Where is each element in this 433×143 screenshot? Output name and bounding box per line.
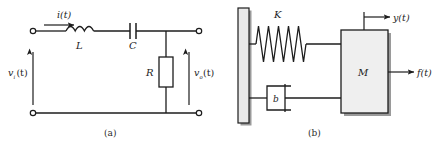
- inductor-label: L: [75, 40, 83, 51]
- fixed-wall: [238, 8, 249, 123]
- svg-text:(t): (t): [16, 67, 27, 78]
- terminal-output-top: [196, 28, 201, 33]
- panel-a-caption: (a): [104, 128, 116, 138]
- current-label: i(t): [57, 9, 72, 20]
- displacement-label: y(t): [392, 12, 410, 23]
- inductor-symbol: [66, 27, 94, 32]
- input-voltage-label: v i (t): [8, 67, 28, 80]
- force-label: f(t): [416, 67, 432, 78]
- resistor-symbol: [159, 57, 173, 87]
- figure-svg: i(t) L C R v i (t) v o (t) (a): [0, 0, 433, 143]
- spring-symbol: [256, 26, 306, 62]
- svg-text:(t): (t): [203, 67, 214, 78]
- damper-label: b: [273, 94, 279, 104]
- capacitor-label: C: [129, 40, 137, 51]
- terminal-input-bottom: [30, 110, 35, 115]
- panel-b-mechanical: K b M y(t) f(t) (b): [238, 8, 432, 138]
- output-voltage-label: v o (t): [194, 67, 214, 80]
- spring-label: K: [273, 9, 282, 20]
- figure-container: i(t) L C R v i (t) v o (t) (a): [0, 0, 433, 143]
- resistor-label: R: [145, 67, 154, 78]
- panel-b-caption: (b): [308, 128, 321, 138]
- svg-text:i: i: [14, 74, 16, 80]
- terminal-output-bottom: [196, 110, 201, 115]
- panel-a-circuit: i(t) L C R v i (t) v o (t) (a): [8, 9, 214, 138]
- terminal-input-top: [30, 28, 35, 33]
- mass-label: M: [357, 67, 369, 78]
